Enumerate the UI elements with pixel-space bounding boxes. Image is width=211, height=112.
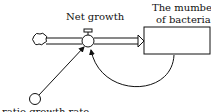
flow-valve-icon xyxy=(82,29,94,47)
auxiliary-link xyxy=(39,47,84,95)
flow-pipe xyxy=(46,35,144,47)
auxiliary-variable xyxy=(30,94,41,105)
source-cloud-icon xyxy=(33,33,47,45)
flow-label: Net growth xyxy=(66,11,124,22)
feedback-link xyxy=(91,50,174,87)
stock-box xyxy=(144,27,210,54)
auxiliary-label: ratio growth rate xyxy=(2,106,89,112)
stock-label-line1: The mumber xyxy=(152,2,211,13)
stock-label-line2: of bacteria xyxy=(156,14,211,25)
